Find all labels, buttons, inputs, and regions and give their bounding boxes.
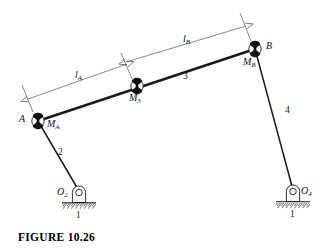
label-link-3: 3: [183, 72, 188, 82]
ground-hatch-right: [276, 202, 310, 208]
extension-line-M3: [121, 53, 132, 79]
label-M3-sub: 3: [137, 97, 141, 105]
label-dimension-lB: lB: [183, 34, 190, 46]
link-4-rocker: [255, 49, 293, 190]
label-O4-sub: 4: [308, 190, 312, 198]
label-ground-right-1: 1: [290, 210, 295, 220]
link-3-coupler: [38, 49, 255, 121]
ground-hatch-left: [62, 203, 96, 209]
label-pivot-O4: O4: [301, 186, 312, 198]
label-link-4: 4: [285, 106, 290, 116]
label-point-B: B: [266, 41, 272, 51]
pin-joint-A: [32, 113, 44, 129]
label-point-MA: MA: [47, 119, 60, 131]
label-point-M3: M3: [129, 93, 141, 105]
figure-caption: FIGURE 10.26: [18, 231, 95, 243]
label-pivot-O2: O2: [57, 187, 68, 199]
label-lA-sub: A: [78, 74, 82, 82]
label-lB-sub: B: [186, 38, 190, 46]
label-point-A: A: [19, 114, 25, 124]
figure-container: A MA M3 B MB O2 O4 lA lB 2 3 4 1 1 FIGUR…: [0, 0, 334, 249]
label-O2-sub: 2: [64, 191, 68, 199]
extension-line-A: [22, 85, 33, 112]
label-MB-sub: B: [251, 61, 255, 69]
label-link-2: 2: [58, 148, 63, 158]
pin-joint-B: [249, 41, 261, 57]
label-point-MB: MB: [243, 57, 256, 69]
label-dimension-lA: lA: [75, 70, 82, 82]
label-ground-left-1: 1: [76, 211, 81, 221]
label-MA-sub: A: [55, 123, 59, 131]
